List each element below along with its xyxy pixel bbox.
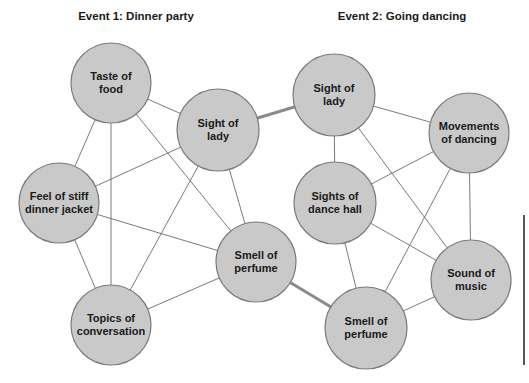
- memory-network-diagram: [0, 0, 529, 383]
- nodes-layer: [19, 43, 511, 369]
- node-smell-perfume-2: [325, 287, 407, 369]
- node-sound-music: [431, 240, 511, 320]
- node-feel-jacket: [19, 163, 99, 243]
- node-topics-conversation: [71, 285, 151, 365]
- node-sight-lady-1: [177, 89, 259, 171]
- node-taste-food: [71, 43, 151, 123]
- event-1-title: Event 1: Dinner party: [78, 10, 194, 22]
- node-sights-dance-hall: [294, 162, 376, 244]
- event-2-title: Event 2: Going dancing: [338, 10, 466, 22]
- node-smell-perfume-1: [216, 222, 296, 302]
- node-sight-lady-2: [293, 54, 375, 136]
- node-movements-dancing: [429, 93, 509, 173]
